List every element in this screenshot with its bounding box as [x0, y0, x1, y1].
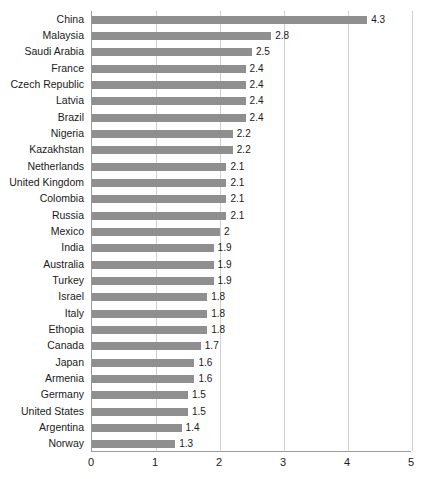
bar-row: 1.4 — [92, 419, 411, 437]
bar-value-label: 1.3 — [179, 439, 193, 449]
bar-value-label: 1.8 — [211, 292, 225, 302]
category-label: Germany — [41, 387, 88, 403]
bar-row: 1.6 — [92, 370, 411, 388]
bar-value-label: 2.4 — [250, 64, 264, 74]
x-tick-label: 4 — [344, 456, 350, 469]
bar-row: 1.9 — [92, 256, 411, 274]
category-label: Armenia — [45, 370, 88, 386]
bar-value-label: 1.8 — [211, 309, 225, 319]
bar-value-label: 1.4 — [186, 423, 200, 433]
bar-value-label: 2.4 — [250, 96, 264, 106]
bar-value-label: 1.9 — [218, 243, 232, 253]
bar-row: 2.8 — [92, 27, 411, 45]
bar-row: 1.7 — [92, 338, 411, 356]
x-tick-label: 0 — [88, 456, 94, 469]
x-tick-label: 2 — [216, 456, 222, 469]
x-tick-label: 5 — [408, 456, 414, 469]
bar-row: 2.1 — [92, 158, 411, 176]
bar-row: 2 — [92, 223, 411, 241]
category-label: Netherlands — [27, 158, 88, 174]
bar — [92, 97, 246, 105]
bar — [92, 130, 233, 138]
bar-value-label: 2.2 — [237, 145, 251, 155]
bar — [92, 228, 220, 236]
bar-row: 2.2 — [92, 142, 411, 160]
bar — [92, 424, 182, 432]
bar — [92, 342, 201, 350]
bar-value-label: 2.8 — [275, 31, 289, 41]
category-label: Australia — [43, 256, 88, 272]
bar — [92, 261, 214, 269]
bar-row: 2.1 — [92, 174, 411, 192]
bar — [92, 179, 226, 187]
category-label: Nigeria — [51, 125, 88, 141]
bar-row: 2.4 — [92, 93, 411, 111]
category-label: United States — [21, 403, 88, 419]
bar-value-label: 2 — [224, 227, 230, 237]
bar — [92, 326, 207, 334]
bar — [92, 146, 233, 154]
bar-value-label: 1.5 — [192, 407, 206, 417]
bar-chart: ChinaMalaysiaSaudi ArabiaFranceCzech Rep… — [0, 0, 428, 479]
bar-row: 1.8 — [92, 305, 411, 323]
bar — [92, 65, 246, 73]
bar-row: 1.6 — [92, 354, 411, 372]
category-label: United Kingdom — [9, 174, 88, 190]
category-label: Turkey — [52, 272, 88, 288]
bar-value-label: 2.1 — [230, 194, 244, 204]
bar — [92, 244, 214, 252]
bar-row: 2.4 — [92, 109, 411, 127]
bar-value-label: 1.9 — [218, 260, 232, 270]
category-label: Argentina — [39, 419, 88, 435]
bar-row: 2.2 — [92, 125, 411, 143]
category-label: China — [57, 11, 88, 27]
bar-value-label: 2.5 — [256, 47, 270, 57]
bar-value-label: 1.5 — [192, 390, 206, 400]
bar-value-label: 2.1 — [230, 178, 244, 188]
bar — [92, 195, 226, 203]
bar-value-label: 2.4 — [250, 80, 264, 90]
bar-row: 2.4 — [92, 60, 411, 78]
bar — [92, 440, 175, 448]
bar — [92, 212, 226, 220]
x-tick-label: 1 — [152, 456, 158, 469]
category-axis-labels: ChinaMalaysiaSaudi ArabiaFranceCzech Rep… — [0, 11, 88, 452]
bar-row: 1.9 — [92, 272, 411, 290]
bar-value-label: 1.8 — [211, 325, 225, 335]
bar-row: 1.8 — [92, 321, 411, 339]
bar — [92, 408, 188, 416]
bar-value-label: 4.3 — [371, 15, 385, 25]
x-tick-label: 3 — [280, 456, 286, 469]
bar — [92, 81, 246, 89]
category-label: Israel — [58, 289, 88, 305]
bar-value-label: 2.4 — [250, 113, 264, 123]
bar-value-label: 1.9 — [218, 276, 232, 286]
bar-rows: 4.32.82.52.42.42.42.42.22.22.12.12.12.12… — [92, 11, 411, 451]
category-label: Saudi Arabia — [24, 44, 88, 60]
bar — [92, 375, 194, 383]
bar — [92, 277, 214, 285]
bar-row: 2.5 — [92, 44, 411, 62]
plot-area: 4.32.82.52.42.42.42.42.22.22.12.12.12.12… — [91, 11, 411, 452]
category-label: Japan — [55, 354, 88, 370]
category-label: India — [61, 240, 88, 256]
bar-row: 1.5 — [92, 403, 411, 421]
bar-row: 2.1 — [92, 191, 411, 209]
bar-row: 4.3 — [92, 11, 411, 29]
bar — [92, 293, 207, 301]
bar — [92, 310, 207, 318]
bar-row: 1.3 — [92, 436, 411, 454]
category-label: Colombia — [40, 191, 88, 207]
bar-value-label: 1.6 — [198, 374, 212, 384]
category-label: Ethopia — [48, 321, 88, 337]
bar — [92, 48, 252, 56]
bar-row: 1.9 — [92, 240, 411, 258]
x-axis-tick-labels: 012345 — [91, 456, 411, 476]
bar-row: 2.1 — [92, 207, 411, 225]
bar-row: 1.5 — [92, 387, 411, 405]
bar — [92, 32, 271, 40]
bar-value-label: 2.1 — [230, 211, 244, 221]
category-label: Brazil — [58, 109, 88, 125]
bar-value-label: 1.7 — [205, 341, 219, 351]
category-label: Malaysia — [43, 27, 88, 43]
